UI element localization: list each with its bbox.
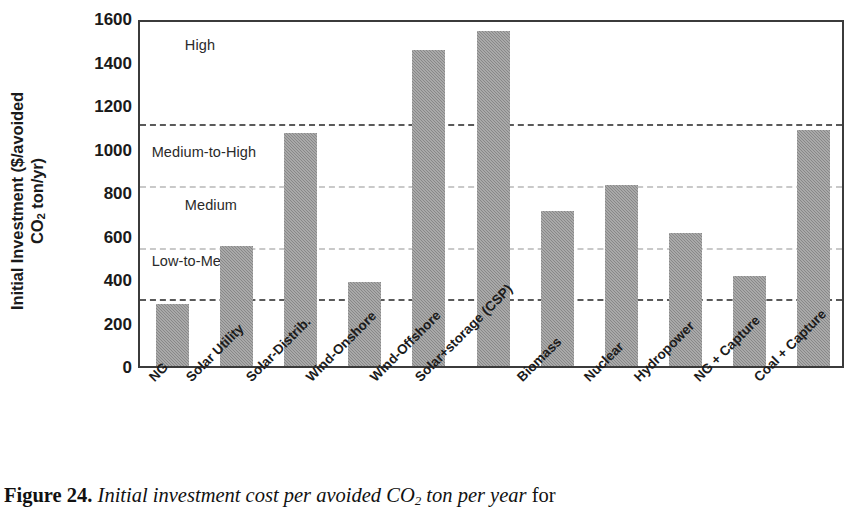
caption-separator: . [87, 484, 97, 506]
y-tick-label: 1600 [70, 10, 132, 30]
y-axis-title-line1: Initial Investment ($/avoided [8, 92, 27, 310]
y-tick-label: 1000 [70, 141, 132, 161]
y-tick-label: 0 [70, 358, 132, 378]
bar-nuclear[interactable] [605, 185, 638, 366]
figure-caption: Figure 24. Initial investment cost per a… [4, 484, 862, 509]
y-axis-title-line2: CO2 ton/yr) [28, 158, 48, 244]
y-tick-label: 200 [70, 315, 132, 335]
y-tick-label: 400 [70, 271, 132, 291]
y-tick-label: 1400 [70, 54, 132, 74]
y-tick-label: 800 [70, 184, 132, 204]
caption-figure-number: Figure 24 [4, 484, 87, 506]
y-tick-label: 1200 [70, 97, 132, 117]
y-axis-title-co2: CO [28, 219, 46, 244]
bar-ng[interactable] [156, 304, 189, 366]
x-axis-tick-labels: NGSolar UtilitySolar-Distrib.Wind-Onshor… [138, 372, 844, 468]
y-axis-tick-labels: 16001400120010008006004002000 [62, 20, 132, 368]
caption-text-pre: Initial investment cost per avoided CO [98, 484, 415, 506]
figure-container: Initial Investment ($/avoided CO2 ton/yr… [0, 0, 865, 521]
caption-text-tail: for [527, 484, 556, 506]
y-axis-title: Initial Investment ($/avoided CO2 ton/yr… [5, 15, 51, 387]
y-axis-title-subscript: 2 [35, 213, 47, 219]
y-tick-label: 600 [70, 228, 132, 248]
caption-text-post: ton per year [421, 484, 526, 506]
y-axis-title-units: ton/yr) [28, 158, 46, 213]
